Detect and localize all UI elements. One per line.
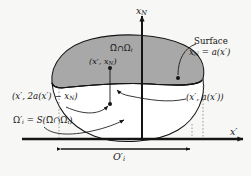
figure-canvas: xN x′ ~Ω∩Ωi Surface xN = a(x′) (x′, xN) … bbox=[0, 0, 251, 176]
point-label-on-surface: (x′, a(x′)) bbox=[186, 93, 224, 102]
axis-label-xprime: x′ bbox=[230, 127, 238, 137]
surface-label: Surface bbox=[194, 37, 228, 46]
interval-label-o-prime: O′i bbox=[113, 152, 125, 163]
axis-label-xn: xN bbox=[136, 6, 147, 17]
point-label-reflected: (x′, 2a(x′) − xN) bbox=[12, 92, 78, 102]
diagram-svg bbox=[0, 0, 251, 176]
marker-point-surface bbox=[176, 76, 180, 80]
point-label-top: (x′, xN) bbox=[89, 57, 117, 67]
omega-prime-definition: Ω′i = S(~Ω∩Ωi) bbox=[13, 116, 73, 126]
region-label-omega-intersect: ~Ω∩Ωi bbox=[110, 44, 133, 54]
tilde-accent: ~ bbox=[110, 41, 116, 48]
tilde-accent-2: ~ bbox=[46, 113, 52, 120]
surface-equation: xN = a(x′) bbox=[189, 48, 230, 58]
